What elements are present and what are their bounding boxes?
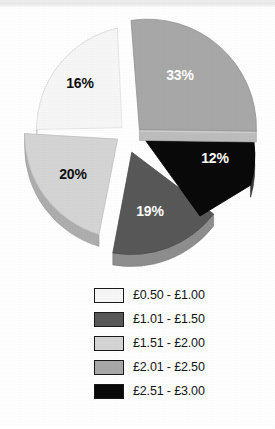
pie-slice-20[interactable] — [25, 134, 118, 247]
legend-label-3: £2.01 - £2.50 — [133, 360, 205, 374]
pie-chart-page: 33% 12% 19% 20% 16% £0.50 - £1.00 £1.01 … — [0, 0, 275, 429]
legend-item-1-01-to-1-50[interactable]: £1.01 - £1.50 — [94, 307, 254, 331]
legend-swatch-icon-0 — [94, 288, 124, 303]
pie-slice-20-top — [25, 134, 118, 235]
pie-label-16: 16% — [66, 75, 94, 91]
pie-label-33: 33% — [166, 67, 194, 83]
legend-swatch-icon-1 — [94, 312, 124, 327]
legend-label-4: £2.51 - £3.00 — [133, 384, 205, 398]
pie-chart-svg: 33% 12% 19% 20% 16% — [0, 0, 275, 281]
legend-item-1-51-to-2-00[interactable]: £1.51 - £2.00 — [94, 331, 254, 355]
legend-label-1: £1.01 - £1.50 — [133, 312, 205, 326]
legend-swatch-icon-3 — [94, 360, 124, 375]
legend-item-0-50-to-1-00[interactable]: £0.50 - £1.00 — [94, 283, 254, 307]
legend-list: £0.50 - £1.00 £1.01 - £1.50 £1.51 - £2.0… — [94, 283, 254, 403]
legend-swatch-icon-4 — [94, 384, 124, 399]
legend-item-2-51-to-3-00[interactable]: £2.51 - £3.00 — [94, 379, 254, 403]
pie-label-19: 19% — [136, 203, 164, 219]
legend-item-2-01-to-2-50[interactable]: £2.01 - £2.50 — [94, 355, 254, 379]
pie-chart: 33% 12% 19% 20% 16% — [0, 0, 275, 281]
legend-swatch-icon-2 — [94, 336, 124, 351]
pie-label-12: 12% — [201, 150, 229, 166]
chart-legend: £0.50 - £1.00 £1.01 - £1.50 £1.51 - £2.0… — [0, 283, 275, 429]
legend-label-0: £0.50 - £1.00 — [133, 288, 205, 302]
pie-label-20: 20% — [59, 166, 87, 182]
legend-label-2: £1.51 - £2.00 — [133, 336, 205, 350]
